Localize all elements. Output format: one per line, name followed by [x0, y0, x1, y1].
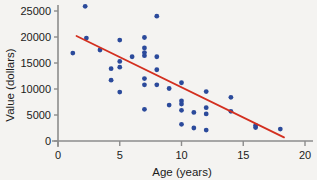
scatter-point	[130, 54, 135, 59]
scatter-point	[154, 14, 159, 19]
scatter-point	[167, 103, 172, 108]
scatter-point	[179, 102, 184, 107]
x-axis-tick-label: 10	[175, 149, 187, 161]
scatter-point	[191, 110, 196, 115]
scatter-point	[142, 82, 147, 87]
x-axis-tick-label: 0	[55, 149, 61, 161]
y-axis-tick-label: 5000	[27, 109, 51, 121]
scatter-point	[179, 122, 184, 127]
scatter-plot-figure: 0500010000150002000025000 05101520 Value…	[0, 0, 317, 180]
scatter-point	[117, 38, 122, 43]
scatter-point	[142, 35, 147, 40]
y-axis-tick-label: 0	[45, 135, 51, 147]
scatter-point	[83, 4, 88, 9]
scatter-point	[278, 127, 283, 132]
scatter-point	[229, 95, 234, 100]
y-axis-title: Value (dollars)	[4, 48, 16, 121]
scatter-point	[117, 65, 122, 70]
scatter-point	[70, 51, 75, 56]
x-axis-title: Age (years)	[152, 166, 212, 178]
scatter-point	[142, 53, 147, 58]
y-axis-tick-label: 10000	[20, 83, 51, 95]
plot-canvas: 0500010000150002000025000 05101520 Value…	[0, 0, 317, 180]
scatter-point	[167, 86, 172, 91]
scatter-point	[154, 54, 159, 59]
scatter-point	[109, 66, 114, 71]
scatter-point	[204, 112, 209, 117]
x-axis-tick-label: 20	[299, 149, 311, 161]
y-axis-tick-label: 25000	[20, 5, 51, 17]
scatter-point	[142, 107, 147, 112]
scatter-point	[109, 78, 114, 83]
scatter-point	[179, 80, 184, 85]
scatter-point	[204, 128, 209, 133]
y-axis-tick-label: 15000	[20, 57, 51, 69]
scatter-point	[117, 90, 122, 95]
scatter-point	[204, 105, 209, 110]
scatter-point	[142, 46, 147, 51]
scatter-point	[117, 59, 122, 64]
scatter-point	[142, 76, 147, 81]
x-axis-tick-label: 5	[117, 149, 123, 161]
scatter-point	[154, 82, 159, 87]
y-axis-tick-label: 20000	[20, 31, 51, 43]
scatter-point	[191, 126, 196, 131]
x-axis-tick-label: 15	[237, 149, 249, 161]
scatter-point	[179, 108, 184, 113]
scatter-point	[253, 125, 258, 130]
scatter-point	[154, 67, 159, 72]
scatter-point	[204, 89, 209, 94]
